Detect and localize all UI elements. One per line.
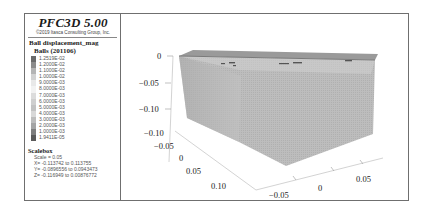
ball-assembly <box>179 50 378 166</box>
y-tick-label: −0.05 <box>269 190 289 200</box>
color-bar-label: 7.0000E-03 <box>39 92 65 98</box>
z-tick-label: −0.10 <box>139 104 159 114</box>
title-separator <box>28 37 117 38</box>
y-tick-label: 0.05 <box>356 174 371 184</box>
color-bar-label: 5.0000E-03 <box>39 104 65 110</box>
scalebox-info: Scale = 0.05 X= -0.113742 to 0.113755 Y=… <box>34 154 98 178</box>
legend-subheading: Balls (201106) <box>34 47 76 55</box>
legend-panel: PFC3D 5.00 ©2019 Itasca Consulting Group… <box>25 14 121 200</box>
app-title: PFC3D 5.00 <box>25 15 121 31</box>
x-tick-label: 0 <box>179 153 183 163</box>
x-tick-label: −0.05 <box>154 141 174 151</box>
z-tick-label: 0 <box>157 51 161 61</box>
color-bar-label: 8.0000E-03 <box>39 85 65 91</box>
color-bar-swatch <box>31 135 36 141</box>
y-axis: −0.05 0 0.05 <box>256 158 383 200</box>
color-bar-label: 1.9411E-05 <box>39 134 65 140</box>
color-bar-labels: 1.2519E-021.2000E-021.1000E-021.0000E-02… <box>39 55 65 140</box>
plot-frame: PFC3D 5.00 ©2019 Itasca Consulting Group… <box>24 13 409 201</box>
x-tick-label: 0.05 <box>186 166 201 176</box>
3d-view[interactable]: 0 −0.05 −0.10 −0.10 −0.05 0 0.05 0.10 −0… <box>121 14 408 200</box>
scalebox-z-range: Z= -0.116949 to 0.00876772 <box>34 172 98 178</box>
copyright-text: ©2019 Itasca Consulting Group, Inc. <box>25 30 121 35</box>
z-tick-label: −0.05 <box>139 78 159 88</box>
legend-heading: Ball displacement_mag <box>29 39 98 47</box>
x-tick-label: 0.10 <box>211 181 226 191</box>
y-tick-label: 0 <box>318 183 322 193</box>
color-bar <box>31 56 36 141</box>
x-tick-label: −0.10 <box>144 128 164 138</box>
3d-scene: 0 −0.05 −0.10 −0.10 −0.05 0 0.05 0.10 −0… <box>121 14 408 200</box>
color-bar-label: 6.0000E-03 <box>39 98 65 104</box>
scalebox-heading: Scalebox <box>28 147 53 154</box>
